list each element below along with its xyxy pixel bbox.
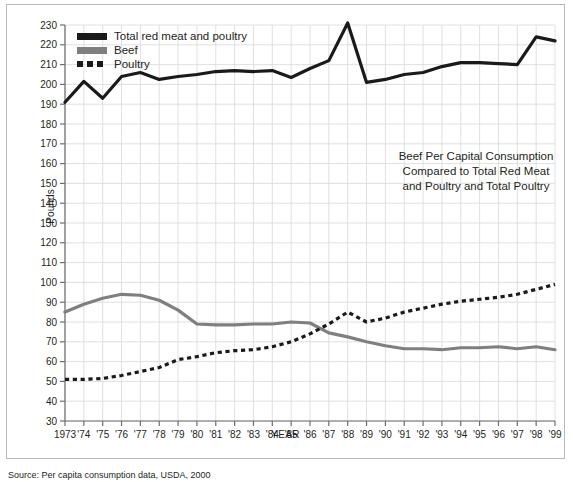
- y-tick-label: 50: [46, 376, 58, 387]
- figure-caption: Source: Per capita consumption data, USD…: [8, 470, 211, 481]
- legend-item-poultry[interactable]: Poultry: [77, 57, 247, 71]
- annotation-line-3: and Poultry and Total Poultry: [381, 179, 571, 194]
- legend-label-beef: Beef: [114, 43, 138, 57]
- y-axis-label: Pounds: [45, 162, 56, 252]
- dotted-swatch-icon: [77, 61, 107, 67]
- y-tick-label: 230: [40, 20, 57, 31]
- plot-area: 3040506070809010011012013014015016017018…: [7, 5, 564, 458]
- line-swatch-icon: [77, 47, 107, 54]
- chart-figure: 3040506070809010011012013014015016017018…: [6, 4, 565, 459]
- y-tick-label: 30: [46, 416, 58, 427]
- y-tick-label: 190: [40, 99, 57, 110]
- line-swatch-icon: [77, 33, 107, 40]
- legend-label-poultry: Poultry: [114, 57, 150, 71]
- legend-label-total: Total red meat and poultry: [114, 29, 247, 43]
- y-tick-label: 100: [40, 277, 57, 288]
- y-tick-label: 220: [40, 39, 57, 50]
- y-tick-label: 60: [46, 356, 58, 367]
- chart-annotation: Beef Per Capital Consumption Compared to…: [381, 149, 571, 194]
- y-tick-label: 90: [46, 297, 58, 308]
- y-tick-label: 180: [40, 119, 57, 130]
- legend-item-total[interactable]: Total red meat and poultry: [77, 29, 247, 43]
- y-tick-label: 200: [40, 79, 57, 90]
- line-chart-svg: 3040506070809010011012013014015016017018…: [7, 5, 564, 458]
- x-axis-label: YEAR: [7, 429, 564, 440]
- legend-item-beef[interactable]: Beef: [77, 43, 247, 57]
- y-tick-label: 40: [46, 396, 58, 407]
- chart-legend: Total red meat and poultry Beef Poultry: [77, 29, 247, 71]
- y-tick-label: 210: [40, 59, 57, 70]
- y-tick-label: 110: [41, 257, 57, 268]
- y-tick-label: 80: [46, 317, 58, 328]
- annotation-line-2: Compared to Total Red Meat: [381, 164, 571, 179]
- y-tick-label: 70: [46, 336, 58, 347]
- y-tick-label: 170: [40, 138, 57, 149]
- annotation-line-1: Beef Per Capital Consumption: [381, 149, 571, 164]
